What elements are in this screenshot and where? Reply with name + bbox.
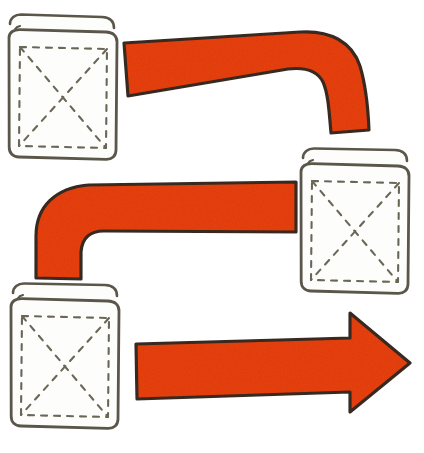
book-bottom-left	[11, 283, 119, 428]
book-middle-right	[301, 148, 409, 293]
book-top-left	[9, 14, 117, 159]
arrow-top	[124, 32, 369, 133]
arrow-bottom-shape	[136, 313, 410, 412]
arrow-bottom	[136, 313, 410, 412]
diagram-svg	[0, 0, 424, 453]
arrow-top-shape	[124, 32, 369, 133]
arrow-middle-shape	[36, 182, 296, 279]
illustration-canvas	[0, 0, 424, 453]
arrow-middle	[36, 182, 296, 279]
